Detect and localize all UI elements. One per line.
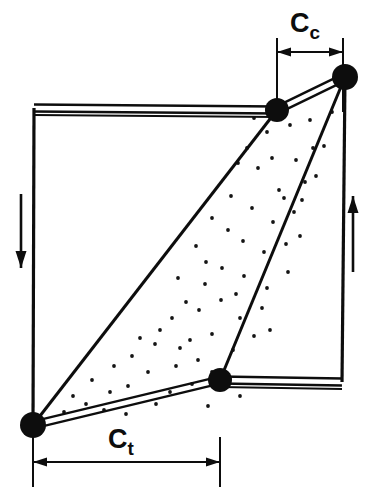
stipple-dot bbox=[226, 228, 230, 232]
stipple-dot bbox=[282, 196, 286, 200]
label-tension-width: Ct bbox=[108, 424, 135, 459]
shear-arrow-head bbox=[16, 251, 27, 268]
stipple-dot bbox=[176, 276, 180, 280]
stipple-dot bbox=[252, 334, 256, 338]
stipple-dot bbox=[292, 210, 296, 214]
stipple-dot bbox=[220, 266, 224, 270]
stipple-dot bbox=[130, 354, 134, 358]
stipple-dot bbox=[238, 316, 242, 320]
stipple-dot bbox=[126, 384, 130, 388]
stipple-dot bbox=[112, 364, 116, 368]
shear-panel-diagram: Cc Ct bbox=[0, 0, 375, 497]
stipple-dot bbox=[234, 292, 238, 296]
stipple-dot bbox=[268, 328, 272, 332]
stipple-dot bbox=[250, 206, 254, 210]
dimension-arrowhead bbox=[206, 458, 220, 467]
stipple-dot bbox=[288, 123, 292, 127]
stipple-dot bbox=[308, 118, 312, 122]
diagonal-strut-region bbox=[33, 77, 345, 425]
node-bottom-left bbox=[20, 412, 46, 438]
stipple-dot bbox=[194, 244, 198, 248]
stipple-dot bbox=[196, 358, 200, 362]
stipple-dot bbox=[286, 270, 290, 274]
stipple-dot bbox=[271, 220, 275, 224]
diagram-canvas: Cc Ct bbox=[0, 0, 375, 497]
dimension-arrowhead bbox=[329, 48, 343, 57]
stipple-dot bbox=[265, 286, 269, 290]
bottom-chord bbox=[220, 383, 342, 385]
stipple-dot bbox=[277, 188, 281, 192]
label-compression-width: Cc bbox=[290, 8, 321, 43]
stipple-dot bbox=[241, 239, 245, 243]
stipple-dot bbox=[188, 338, 192, 342]
stipple-dot bbox=[284, 242, 288, 246]
stipple-dot bbox=[262, 250, 266, 254]
stipple-dot bbox=[229, 194, 233, 198]
stipple-dot bbox=[203, 282, 207, 286]
stipple-dot bbox=[242, 274, 246, 278]
node-top-right bbox=[332, 64, 358, 90]
stipple-dot bbox=[270, 156, 274, 160]
stipple-dot bbox=[154, 402, 158, 406]
frame-bottom-beam-inner bbox=[220, 387, 342, 389]
stipple-dot bbox=[146, 370, 150, 374]
top-chord bbox=[34, 111, 277, 113]
stipple-dot bbox=[219, 298, 223, 302]
frame-right-column bbox=[342, 77, 345, 382]
stipple-dot bbox=[256, 166, 260, 170]
stipple-dot bbox=[178, 346, 182, 350]
shear-arrow-right bbox=[348, 196, 359, 272]
stipple-dot bbox=[197, 308, 201, 312]
frame-top-beam-inner bbox=[34, 115, 277, 117]
stipple-dot bbox=[322, 144, 326, 148]
bottom-chord bbox=[220, 377, 342, 379]
stipple-dot bbox=[124, 412, 128, 416]
stipple-dot bbox=[204, 260, 208, 264]
stipple-dot bbox=[210, 216, 214, 220]
strut-fill bbox=[33, 77, 345, 425]
stipple-dot bbox=[300, 198, 304, 202]
stipple-dot bbox=[108, 390, 112, 394]
top-chord bbox=[34, 105, 277, 107]
frame-left-column bbox=[33, 108, 34, 425]
stipple-dot bbox=[153, 342, 157, 346]
stipple-dot bbox=[174, 364, 178, 368]
stipple-dot bbox=[158, 328, 162, 332]
stipple-dot bbox=[170, 316, 174, 320]
shear-arrow-left bbox=[16, 194, 27, 268]
stipple-dot bbox=[184, 300, 188, 304]
stipple-dot bbox=[314, 174, 318, 178]
dimension-arrowhead bbox=[277, 48, 291, 57]
stipple-dot bbox=[90, 378, 94, 382]
stipple-dot bbox=[294, 158, 298, 162]
dimension-arrowhead bbox=[33, 458, 47, 467]
stipple-dot bbox=[206, 404, 210, 408]
shear-arrow-head bbox=[348, 196, 359, 213]
stipple-dot bbox=[238, 394, 242, 398]
stipple-dot bbox=[260, 306, 264, 310]
node-bottom-right bbox=[208, 368, 232, 392]
stipple-dot bbox=[71, 394, 75, 398]
stipple-dot bbox=[138, 336, 142, 340]
stipple-dot bbox=[168, 390, 172, 394]
stipple-dot bbox=[265, 130, 269, 134]
stipple-dot bbox=[84, 402, 88, 406]
stipple-dot bbox=[298, 234, 302, 238]
stipple-dot bbox=[210, 332, 214, 336]
